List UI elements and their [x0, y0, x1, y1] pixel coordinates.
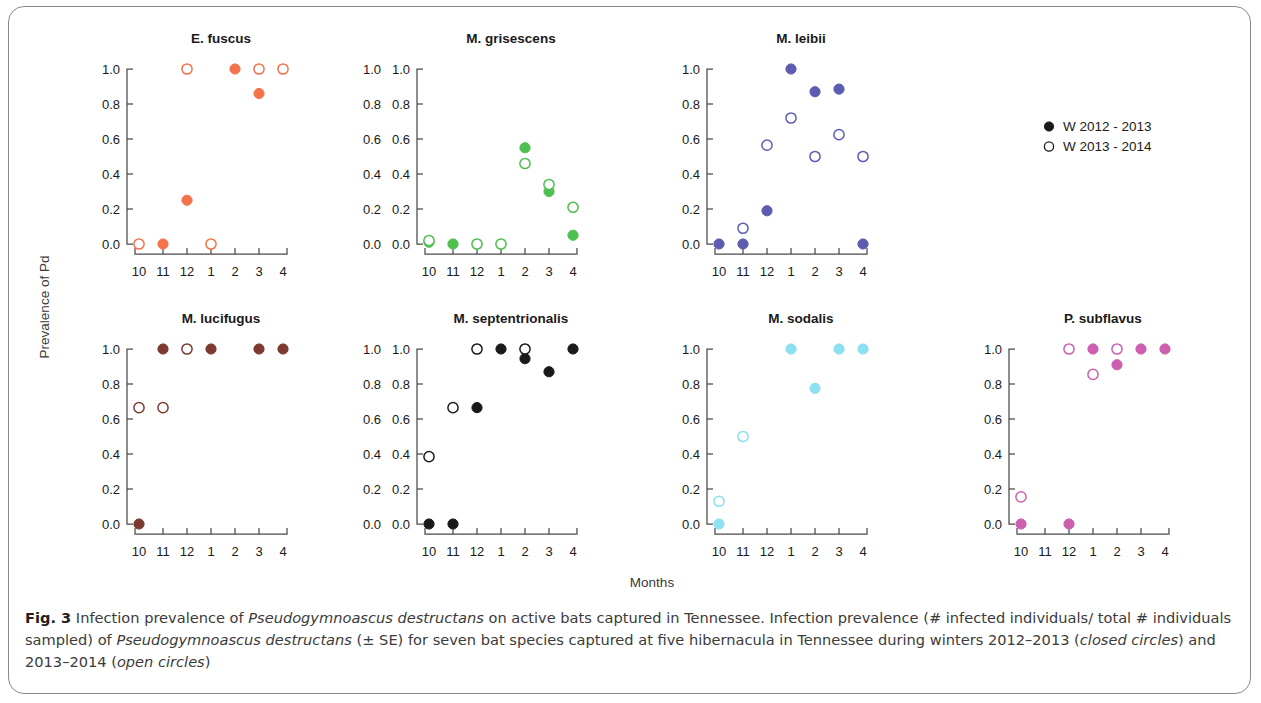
- legend-marker-filled: [1044, 122, 1053, 131]
- x-tick-label-4-3: 1: [497, 544, 504, 559]
- x-tick-label-4-6: 4: [569, 544, 576, 559]
- x-tick-label-2-1: 11: [736, 264, 750, 279]
- x-tick-label-5-1: 11: [736, 544, 750, 559]
- x-tick-label-6-3: 1: [1089, 544, 1096, 559]
- x-tick-label-2-4: 2: [811, 264, 818, 279]
- caption-figure-number: Fig. 3: [25, 609, 71, 626]
- data-point-open: [1112, 344, 1122, 354]
- data-point-filled: [1112, 360, 1122, 370]
- y-tick-label-6-5: 1.0: [984, 342, 1002, 357]
- data-point-open: [1064, 344, 1074, 354]
- data-point-open: [254, 64, 264, 74]
- data-point-open: [714, 496, 724, 506]
- x-tick-label-5-2: 12: [760, 544, 774, 559]
- panel-title-1: M. grisescens: [466, 31, 555, 46]
- chart-legend: W 2012 - 2013W 2013 - 2014: [1044, 119, 1152, 154]
- y-tick-label-right-0-5: 1.0: [363, 62, 381, 77]
- panel-title-2: M. leibii: [776, 31, 826, 46]
- data-point-filled: [1136, 344, 1146, 354]
- panel-m-lucifugus: M. lucifugus0.00.20.40.60.81.00.00.20.40…: [102, 311, 381, 559]
- y-tick-label-right-0-0: 0.0: [363, 237, 381, 252]
- x-tick-label-5-5: 3: [835, 544, 842, 559]
- panel-m-leibii: M. leibii0.00.20.40.60.81.01011121234: [682, 31, 868, 279]
- x-tick-label-1-1: 11: [446, 264, 460, 279]
- data-point-filled: [182, 195, 192, 205]
- y-tick-label-right-3-4: 0.8: [363, 377, 381, 392]
- data-point-open: [1016, 492, 1026, 502]
- y-tick-label-2-5: 1.0: [682, 62, 700, 77]
- caption-open-circles: open circles: [117, 653, 205, 670]
- y-axis-line-1: [417, 69, 423, 244]
- x-tick-label-6-6: 4: [1161, 544, 1168, 559]
- y-tick-label-right-0-4: 0.8: [363, 97, 381, 112]
- x-tick-label-4-1: 11: [446, 544, 460, 559]
- y-tick-label-4-2: 0.4: [392, 447, 410, 462]
- data-point-open: [762, 140, 772, 150]
- data-point-filled: [254, 88, 264, 98]
- x-tick-label-0-1: 11: [156, 264, 170, 279]
- panel-p-subflavus: P. subflavus0.00.20.40.60.81.01011121234: [984, 311, 1170, 559]
- y-tick-label-1-2: 0.4: [392, 167, 410, 182]
- data-point-open: [568, 202, 578, 212]
- x-tick-label-1-6: 4: [569, 264, 576, 279]
- data-point-filled: [1088, 344, 1098, 354]
- y-tick-label-right-3-3: 0.6: [363, 412, 381, 427]
- legend-label-1: W 2013 - 2014: [1063, 139, 1152, 154]
- data-point-open: [786, 113, 796, 123]
- y-tick-label-5-1: 0.2: [682, 482, 700, 497]
- data-point-open: [424, 452, 434, 462]
- x-tick-label-4-5: 3: [545, 544, 552, 559]
- caption-part-1: Infection prevalence of: [71, 609, 248, 626]
- data-point-filled: [158, 344, 168, 354]
- data-point-filled: [858, 344, 868, 354]
- data-point-open: [520, 158, 530, 168]
- panel-title-0: E. fuscus: [191, 31, 251, 46]
- panel-title-5: M. sodalis: [768, 311, 833, 326]
- x-tick-label-0-3: 1: [207, 264, 214, 279]
- data-point-filled: [520, 354, 530, 364]
- data-point-filled: [858, 239, 868, 249]
- caption-part-3: (± SE) for seven bat species captured at…: [352, 631, 1080, 648]
- figure-card: E. fuscus0.00.20.40.60.81.00.00.20.40.60…: [8, 6, 1251, 694]
- data-point-filled: [568, 230, 578, 240]
- data-point-filled: [810, 383, 820, 393]
- y-axis-line-3: [127, 349, 133, 524]
- data-point-open: [472, 344, 482, 354]
- data-point-open: [206, 239, 216, 249]
- panel-title-6: P. subflavus: [1064, 311, 1142, 326]
- y-tick-label-4-0: 0.0: [392, 517, 410, 532]
- y-tick-label-5-5: 1.0: [682, 342, 700, 357]
- y-tick-label-1-1: 0.2: [392, 202, 410, 217]
- data-point-open: [858, 151, 868, 161]
- data-point-filled: [158, 239, 168, 249]
- data-point-open: [472, 239, 482, 249]
- x-tick-label-0-0: 10: [132, 264, 146, 279]
- y-axis-line-2: [707, 69, 713, 244]
- x-tick-label-3-1: 11: [156, 544, 170, 559]
- y-tick-label-0-3: 0.6: [102, 132, 120, 147]
- y-tick-label-0-5: 1.0: [102, 62, 120, 77]
- y-axis-line-6: [1009, 349, 1015, 524]
- data-point-filled: [254, 344, 264, 354]
- x-tick-label-4-2: 12: [470, 544, 484, 559]
- data-point-filled: [230, 64, 240, 74]
- y-tick-label-6-1: 0.2: [984, 482, 1002, 497]
- legend-marker-open: [1044, 142, 1053, 151]
- data-point-filled: [278, 344, 288, 354]
- panel-m-septentrionalis: M. septentrionalis0.00.20.40.60.81.01011…: [392, 311, 578, 559]
- x-tick-label-1-4: 2: [521, 264, 528, 279]
- x-tick-label-0-2: 12: [180, 264, 194, 279]
- data-point-open: [134, 403, 144, 413]
- y-tick-label-1-4: 0.8: [392, 97, 410, 112]
- y-tick-label-right-3-2: 0.4: [363, 447, 381, 462]
- y-tick-label-1-0: 0.0: [392, 237, 410, 252]
- data-point-filled: [448, 519, 458, 529]
- data-point-open: [182, 344, 192, 354]
- legend-label-0: W 2012 - 2013: [1063, 119, 1152, 134]
- data-point-filled: [544, 367, 554, 377]
- data-point-open: [738, 431, 748, 441]
- panel-m-sodalis: M. sodalis0.00.20.40.60.81.01011121234: [682, 311, 868, 559]
- x-tick-label-5-3: 1: [787, 544, 794, 559]
- y-tick-label-2-3: 0.6: [682, 132, 700, 147]
- y-tick-label-1-5: 1.0: [392, 62, 410, 77]
